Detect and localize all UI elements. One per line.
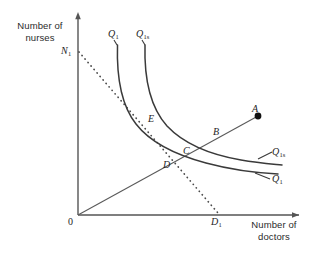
y-axis-title: Number of nurses [8,20,72,43]
x-intercept-letter: D [211,216,218,227]
curve-label-q1s-right: Q1s [272,146,285,157]
point-label-b: B [213,126,219,137]
curve-label-q1-top: Q1 [108,28,118,39]
x-intercept-label: D1 [211,216,221,227]
curve-label-q1s-top: Q1s [136,28,149,39]
point-label-a: A [252,103,258,114]
leader-line-q1-top [114,40,117,45]
leader-line-q1s-top [142,40,145,45]
x-axis-title: Number of doctors [238,219,310,242]
curve-label-q1s-right-subscript: 1s [280,151,286,158]
isoquant-diagram: Number of nurses Number of doctors 0 N1 … [0,0,318,257]
curve-label-q1-top-letter: Q [108,28,115,39]
leader-line-q1s-right [258,152,272,159]
point-label-e: E [148,113,154,124]
curve-label-q1-right-letter: Q [272,173,279,184]
y-intercept-label: N1 [61,45,71,56]
budget-line [79,52,218,213]
x-intercept-subscript: 1 [219,221,222,228]
point-label-d: D [163,159,170,170]
curve-label-q1-right: Q1 [272,173,282,184]
y-intercept-letter: N [61,45,68,56]
curve-label-q1-top-subscript: 1 [116,33,119,40]
curve-label-q1s-right-letter: Q [272,146,279,157]
curve-label-q1s-top-letter: Q [136,28,143,39]
origin-label: 0 [68,216,73,227]
curve-label-q1-right-subscript: 1 [280,178,283,185]
point-label-c: C [183,145,190,156]
curve-label-q1s-top-subscript: 1s [144,33,150,40]
y-intercept-subscript: 1 [68,50,71,57]
